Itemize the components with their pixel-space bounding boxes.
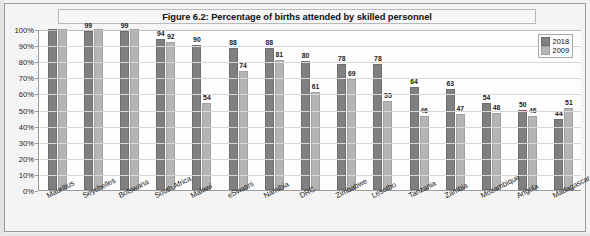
y-axis-tick-label: 30% (19, 138, 34, 147)
chart-title-box: Figure 6.2: Percentage of births attende… (58, 9, 536, 24)
y-axis-tick-label: 80% (19, 58, 34, 67)
bar-2018: 80 (301, 61, 310, 190)
gridline (39, 62, 581, 63)
y-axis-tick-label: 70% (19, 74, 34, 83)
scan-edge-bottom (0, 233, 590, 236)
bar-value-label: 81 (276, 51, 284, 58)
bar-2018: 88 (229, 48, 238, 190)
y-axis-tick-label: 40% (19, 122, 34, 131)
y-axis-tick-label: 0% (23, 187, 34, 196)
y-axis: 0%10%20%30%40%50%60%70%80%90%100% (5, 30, 38, 191)
bar-value-label: 80 (302, 52, 310, 59)
bar-2009: 92 (166, 42, 175, 190)
gridline (39, 127, 581, 128)
gridline (39, 78, 581, 79)
bar-2009: 48 (492, 113, 501, 190)
gridline (39, 30, 581, 31)
bar-2009 (58, 29, 67, 190)
bar-2018 (48, 29, 57, 190)
y-axis-tick-label: 50% (19, 106, 34, 115)
legend-label-2009: 2009 (553, 46, 569, 55)
legend-item: 2018 (541, 37, 569, 46)
legend-swatch-2009-icon (541, 46, 550, 55)
plot-area: 9999949290548874888180617869785564466347… (38, 30, 581, 191)
bar-value-label: 63 (447, 80, 455, 87)
bar-2018: 90 (192, 45, 201, 190)
bar-value-label: 51 (565, 99, 573, 106)
bar-2009: 74 (239, 71, 248, 190)
gridline (39, 175, 581, 176)
bar-value-label: 69 (348, 70, 356, 77)
legend-label-2018: 2018 (553, 37, 569, 46)
chart-outer-frame: Figure 6.2: Percentage of births attende… (4, 3, 586, 232)
bar-2009: 55 (383, 101, 392, 190)
bar-2009: 54 (202, 103, 211, 190)
bar-value-label: 90 (193, 36, 201, 43)
page-title: Figure 6.2: Percentage of births attende… (162, 12, 432, 22)
gridline (39, 94, 581, 95)
bar-2009: 51 (564, 108, 573, 190)
x-axis: MauritiusSeychellesBotswanaSouth AfricaM… (38, 192, 581, 236)
gridline (39, 159, 581, 160)
bar-2018: 44 (554, 119, 563, 190)
y-axis-tick-label: 60% (19, 90, 34, 99)
bar-value-label: 61 (312, 83, 320, 90)
bar-2009: 69 (347, 79, 356, 190)
bar-value-label: 99 (121, 22, 129, 29)
y-axis-tick-label: 20% (19, 154, 34, 163)
bar-2009 (94, 29, 103, 190)
legend-swatch-2018-icon (541, 37, 550, 46)
bar-2018: 54 (482, 103, 491, 190)
y-axis-tick-label: 100% (15, 26, 34, 35)
gridline (39, 143, 581, 144)
y-axis-tick-label: 90% (19, 42, 34, 51)
gridline (39, 46, 581, 47)
chart-legend: 2018 2009 (538, 34, 573, 58)
y-axis-tick-label: 10% (19, 170, 34, 179)
bar-2009 (130, 29, 139, 190)
bar-value-label: 92 (167, 33, 175, 40)
bar-2018: 88 (265, 48, 274, 190)
gridline (39, 111, 581, 112)
figure-container: Figure 6.2: Percentage of births attende… (0, 0, 590, 236)
bar-value-label: 99 (85, 22, 93, 29)
legend-item: 2009 (541, 46, 569, 55)
bar-value-label: 50 (519, 101, 527, 108)
